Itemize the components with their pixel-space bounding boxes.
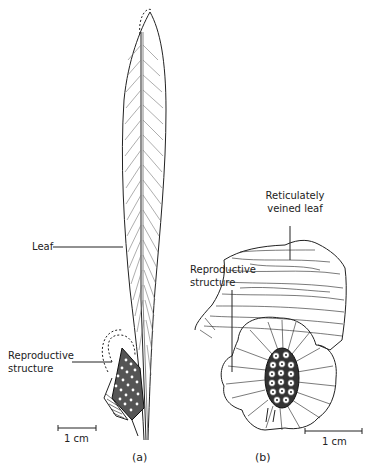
- scale-bar-b-label: 1 cm: [322, 436, 347, 448]
- reticulate-leaf-label-line2: veined leaf: [262, 203, 328, 215]
- repro-a-label-line2: structure: [8, 363, 53, 375]
- repro-a-label-line1: Reproductive: [8, 350, 74, 362]
- panel-b-caption: (b): [255, 451, 271, 464]
- repro-b-label-line1: Reproductive: [190, 264, 256, 276]
- repro-b-label-line2: structure: [190, 277, 235, 289]
- scale-bar-a: [58, 425, 96, 431]
- panel-a-caption: (a): [132, 451, 147, 464]
- panel-a-reproductive-structure: [102, 330, 144, 436]
- reticulate-leaf-label-line1: Reticulately: [262, 190, 328, 202]
- panel-b-reproductive-structure: [221, 290, 336, 430]
- scale-bar-a-label: 1 cm: [64, 433, 89, 445]
- scale-bar-b: [305, 428, 362, 434]
- leaf-label: Leaf: [32, 241, 53, 253]
- illustration-canvas: [0, 0, 370, 471]
